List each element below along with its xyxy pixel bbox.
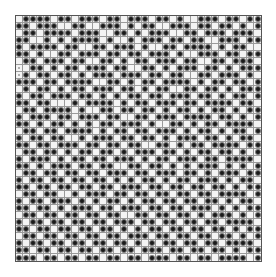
cell-filled-dot[interactable] xyxy=(247,86,254,93)
cell-filled-dot[interactable] xyxy=(170,198,177,205)
cell-filled-dot[interactable] xyxy=(156,205,163,212)
cell-empty[interactable] xyxy=(128,128,135,135)
cell-filled-dot[interactable] xyxy=(86,233,93,240)
cell-filled-dot[interactable] xyxy=(93,86,100,93)
cell-empty[interactable] xyxy=(149,128,156,135)
cell-filled-dot[interactable] xyxy=(37,72,44,79)
cell-filled-dot[interactable] xyxy=(121,86,128,93)
cell-empty[interactable] xyxy=(72,226,79,233)
cell-filled-dot[interactable] xyxy=(219,128,226,135)
cell-filled-dot[interactable] xyxy=(205,135,212,142)
cell-empty[interactable] xyxy=(254,44,261,51)
cell-filled-dot[interactable] xyxy=(247,51,254,58)
cell-filled-dot[interactable] xyxy=(191,100,198,107)
cell-empty[interactable] xyxy=(135,247,142,254)
cell-filled-dot[interactable] xyxy=(198,37,205,44)
cell-empty[interactable] xyxy=(170,142,177,149)
cell-filled-dot[interactable] xyxy=(100,121,107,128)
cell-empty[interactable] xyxy=(170,65,177,72)
cell-filled-dot[interactable] xyxy=(177,212,184,219)
cell-empty[interactable] xyxy=(16,86,23,93)
cell-filled-dot[interactable] xyxy=(107,205,114,212)
cell-filled-dot[interactable] xyxy=(142,23,149,30)
cell-empty[interactable] xyxy=(212,233,219,240)
cell-filled-dot[interactable] xyxy=(128,86,135,93)
cell-filled-dot[interactable] xyxy=(51,254,58,261)
cell-filled-dot[interactable] xyxy=(142,177,149,184)
cell-filled-dot[interactable] xyxy=(58,107,65,114)
cell-empty[interactable] xyxy=(191,128,198,135)
cell-empty[interactable] xyxy=(149,156,156,163)
cell-empty[interactable] xyxy=(72,72,79,79)
cell-filled-dot[interactable] xyxy=(16,114,23,121)
cell-empty[interactable] xyxy=(233,177,240,184)
cell-filled-dot[interactable] xyxy=(44,128,51,135)
cell-filled-dot[interactable] xyxy=(114,254,121,261)
cell-filled-dot[interactable] xyxy=(23,142,30,149)
cell-filled-dot[interactable] xyxy=(233,142,240,149)
cell-filled-dot[interactable] xyxy=(65,16,72,23)
cell-filled-dot[interactable] xyxy=(65,44,72,51)
cell-filled-dot[interactable] xyxy=(23,205,30,212)
cell-empty[interactable] xyxy=(72,198,79,205)
cell-filled-dot[interactable] xyxy=(163,44,170,51)
cell-filled-dot[interactable] xyxy=(79,135,86,142)
cell-filled-dot[interactable] xyxy=(212,156,219,163)
cell-filled-dot[interactable] xyxy=(44,149,51,156)
cell-filled-dot[interactable] xyxy=(23,79,30,86)
cell-filled-dot[interactable] xyxy=(86,30,93,37)
cell-filled-dot[interactable] xyxy=(247,156,254,163)
cell-filled-dot[interactable] xyxy=(30,198,37,205)
cell-filled-dot[interactable] xyxy=(233,226,240,233)
cell-filled-dot[interactable] xyxy=(198,163,205,170)
cell-filled-dot[interactable] xyxy=(212,135,219,142)
cell-filled-dot[interactable] xyxy=(114,114,121,121)
cell-empty[interactable] xyxy=(121,93,128,100)
cell-empty[interactable] xyxy=(184,247,191,254)
cell-empty[interactable] xyxy=(93,226,100,233)
cell-empty[interactable] xyxy=(170,233,177,240)
cell-filled-dot[interactable] xyxy=(233,107,240,114)
cell-filled-dot[interactable] xyxy=(58,163,65,170)
cell-filled-dot[interactable] xyxy=(156,51,163,58)
cell-empty[interactable] xyxy=(128,30,135,37)
cell-empty[interactable] xyxy=(16,128,23,135)
cell-filled-dot[interactable] xyxy=(240,128,247,135)
cell-filled-dot[interactable] xyxy=(93,51,100,58)
cell-filled-dot[interactable] xyxy=(184,198,191,205)
cell-filled-dot[interactable] xyxy=(247,198,254,205)
cell-filled-dot[interactable] xyxy=(240,44,247,51)
cell-filled-dot[interactable] xyxy=(233,16,240,23)
cell-filled-dot[interactable] xyxy=(37,156,44,163)
cell-filled-dot[interactable] xyxy=(121,121,128,128)
cell-filled-dot[interactable] xyxy=(23,226,30,233)
cell-empty[interactable] xyxy=(121,233,128,240)
cell-filled-dot[interactable] xyxy=(128,72,135,79)
cell-filled-dot[interactable] xyxy=(100,23,107,30)
cell-empty[interactable] xyxy=(16,107,23,114)
cell-filled-dot[interactable] xyxy=(212,65,219,72)
cell-filled-dot[interactable] xyxy=(107,72,114,79)
cell-empty[interactable] xyxy=(184,142,191,149)
cell-filled-dot[interactable] xyxy=(86,16,93,23)
cell-filled-dot[interactable] xyxy=(121,191,128,198)
cell-empty[interactable] xyxy=(44,163,51,170)
cell-empty[interactable] xyxy=(184,121,191,128)
cell-empty[interactable] xyxy=(226,128,233,135)
cell-empty[interactable] xyxy=(191,177,198,184)
cell-filled-dot[interactable] xyxy=(72,65,79,72)
cell-empty[interactable] xyxy=(156,240,163,247)
cell-filled-dot[interactable] xyxy=(86,93,93,100)
cell-filled-dot[interactable] xyxy=(254,254,261,261)
cell-filled-dot[interactable] xyxy=(86,163,93,170)
cell-empty[interactable] xyxy=(184,184,191,191)
cell-filled-dot[interactable] xyxy=(58,135,65,142)
cell-empty[interactable] xyxy=(121,198,128,205)
cell-empty[interactable] xyxy=(93,247,100,254)
cell-empty[interactable] xyxy=(58,170,65,177)
cell-filled-dot[interactable] xyxy=(93,135,100,142)
cell-empty[interactable] xyxy=(142,93,149,100)
cell-filled-dot[interactable] xyxy=(114,212,121,219)
cell-empty[interactable] xyxy=(135,37,142,44)
cell-empty[interactable] xyxy=(240,226,247,233)
